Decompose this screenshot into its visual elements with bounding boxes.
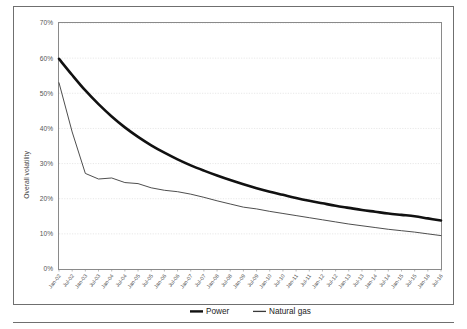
- x-tick-label: Jan-15: [390, 273, 405, 290]
- x-tick-label: Jan-13: [337, 273, 352, 290]
- series-line-power: [59, 59, 441, 221]
- x-tick-label: Jan-07: [179, 273, 194, 290]
- x-tick-label: Jan-12: [311, 273, 326, 290]
- x-tick-label: Jan-16: [416, 273, 431, 290]
- x-axis-tick-labels: Jan-02Jul-02Jan-03Jul-03Jan-04Jul-04Jan-…: [47, 269, 444, 290]
- x-tick-label: Jan-11: [284, 273, 299, 289]
- data-series-group: [59, 59, 441, 236]
- chart-figure: 0%10%20%30%40%50%60%70% Jan-02Jul-02Jan-…: [0, 0, 467, 329]
- x-tick-label: Jan-02: [47, 273, 62, 290]
- x-tick-label: Jan-14: [363, 273, 378, 290]
- y-tick-label: 10%: [40, 230, 53, 237]
- x-tick-label: Jan-06: [152, 273, 167, 290]
- chart-legend: PowerNatural gas: [190, 307, 311, 316]
- x-tick-label: Jan-09: [232, 273, 247, 290]
- volatility-line-chart: 0%10%20%30%40%50%60%70% Jan-02Jul-02Jan-…: [0, 0, 467, 329]
- y-tick-label: 20%: [40, 195, 53, 202]
- x-tick-label: Jul-16: [430, 273, 444, 288]
- x-tick-label: Jan-03: [73, 273, 88, 290]
- plot-area-border: [59, 23, 442, 270]
- y-axis-tick-labels: 0%10%20%30%40%50%60%70%: [40, 19, 53, 272]
- y-axis-title: Overall volatility: [23, 151, 31, 199]
- x-tick-label: Jan-08: [205, 273, 220, 290]
- plot-gridlines: [59, 23, 441, 234]
- y-tick-label: 40%: [40, 125, 53, 132]
- y-tick-label: 70%: [40, 19, 53, 26]
- x-tick-label: Jan-05: [126, 273, 141, 290]
- y-tick-label: 60%: [40, 55, 53, 62]
- y-tick-label: 50%: [40, 90, 53, 97]
- y-tick-label: 30%: [40, 160, 53, 167]
- legend-label-power: Power: [206, 307, 229, 316]
- x-tick-label: Jan-04: [100, 273, 115, 290]
- y-tick-label: 0%: [43, 265, 53, 272]
- x-tick-label: Jan-10: [258, 273, 273, 290]
- legend-label-natural-gas: Natural gas: [269, 307, 311, 316]
